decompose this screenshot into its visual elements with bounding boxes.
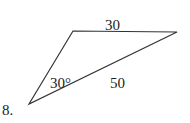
angle-label: 30° — [50, 76, 71, 91]
bottom-side-label: 50 — [110, 76, 125, 91]
triangle-diagram — [0, 0, 190, 123]
triangle — [29, 31, 177, 104]
problem-number: 8. — [2, 103, 13, 118]
top-side-label: 30 — [105, 18, 120, 33]
